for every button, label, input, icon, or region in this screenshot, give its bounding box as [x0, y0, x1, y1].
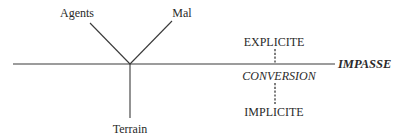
terrain-label: Terrain [113, 122, 147, 136]
agents-branch-line [90, 23, 130, 64]
impasse-label: IMPASSE [337, 57, 391, 71]
explicite-label: EXPLICITE [244, 35, 305, 49]
mal-label: Mal [172, 6, 192, 20]
diagram-canvas: Agents Mal Terrain EXPLICITE CONVERSION … [0, 0, 395, 140]
mal-branch-line [130, 21, 172, 64]
agents-label: Agents [60, 6, 94, 20]
conversion-label: CONVERSION [242, 69, 316, 83]
implicite-label: IMPLICITE [244, 105, 303, 119]
